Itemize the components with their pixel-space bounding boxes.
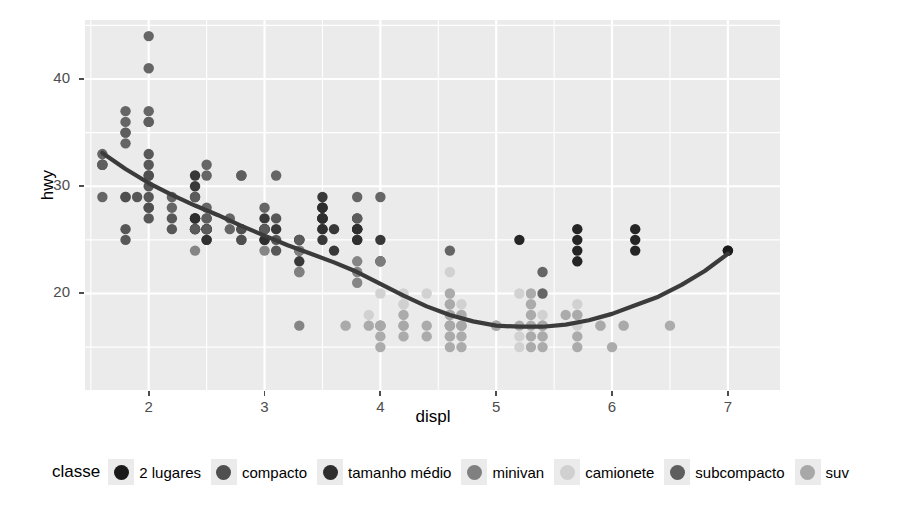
series-minivan — [190, 245, 386, 330]
legend: classe 2 lugarescompactotamanho médiomin… — [0, 452, 911, 492]
x-tick-mark — [727, 391, 729, 396]
x-tick-mark — [264, 391, 266, 396]
legend-item-label: 2 lugares — [139, 464, 201, 481]
legend-item-2-lugares[interactable]: 2 lugares — [108, 459, 201, 485]
legend-item-label: suv — [826, 464, 849, 481]
x-tick-mark — [495, 391, 497, 396]
legend-key-swatch — [461, 459, 487, 485]
legend-dot-icon — [560, 465, 575, 480]
legend-item-tamanho-médio[interactable]: tamanho médio — [317, 459, 451, 485]
y-tick-mark — [79, 292, 84, 294]
y-tick-mark — [79, 78, 84, 80]
legend-item-label: camionete — [585, 464, 654, 481]
legend-dot-icon — [114, 465, 129, 480]
x-tick-mark — [148, 391, 150, 396]
y-tick-label: 20 — [30, 283, 70, 300]
legend-dot-icon — [323, 465, 338, 480]
y-tick-mark — [79, 185, 84, 187]
legend-item-camionete[interactable]: camionete — [554, 459, 654, 485]
legend-item-label: subcompacto — [695, 464, 784, 481]
legend-item-label: compacto — [242, 464, 307, 481]
legend-key-swatch — [795, 459, 821, 485]
y-tick-label: 40 — [30, 69, 70, 86]
x-tick-mark — [611, 391, 613, 396]
legend-key-swatch — [211, 459, 237, 485]
legend-key-swatch — [664, 459, 690, 485]
legend-item-label: tamanho médio — [348, 464, 451, 481]
legend-item-compacto[interactable]: compacto — [211, 459, 307, 485]
legend-item-suv[interactable]: suv — [795, 459, 849, 485]
legend-dot-icon — [467, 465, 482, 480]
scatter-plot-figure: hwy 203040 234567 displ classe 2 lugares… — [0, 0, 911, 506]
series-suv — [340, 288, 675, 352]
x-axis-title: displ — [0, 407, 866, 427]
legend-key-swatch — [108, 459, 134, 485]
legend-dot-icon — [670, 465, 685, 480]
legend-item-label: minivan — [492, 464, 544, 481]
legend-item-minivan[interactable]: minivan — [461, 459, 544, 485]
legend-key-swatch — [317, 459, 343, 485]
legend-title: classe — [52, 462, 100, 482]
plot-canvas — [85, 20, 780, 390]
y-tick-label: 30 — [30, 176, 70, 193]
series-2-lugares — [514, 224, 733, 267]
legend-key-swatch — [554, 459, 580, 485]
legend-dot-icon — [216, 465, 231, 480]
legend-item-subcompacto[interactable]: subcompacto — [664, 459, 784, 485]
plot-panel — [85, 20, 780, 390]
x-tick-mark — [379, 391, 381, 396]
legend-dot-icon — [800, 465, 815, 480]
